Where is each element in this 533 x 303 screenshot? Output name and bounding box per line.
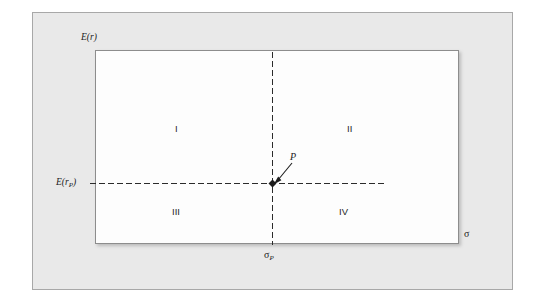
- y-axis-value-close: ): [73, 177, 76, 187]
- quadrant-label-ii: II: [347, 124, 352, 134]
- y-axis-label-text: E(r): [81, 32, 97, 42]
- x-axis-label-text: σ: [464, 228, 469, 239]
- point-p-label: P: [290, 152, 296, 162]
- y-axis-value-base: E(r: [56, 177, 69, 187]
- y-axis-value-label: E(rP): [56, 178, 76, 189]
- figure-root: E(r) E(rP) σ_PσP σ I II III IV P: [0, 0, 533, 303]
- plot-area: [95, 50, 459, 244]
- quadrant-label-iii: III: [172, 207, 180, 217]
- y-axis-label: E(r): [81, 33, 97, 43]
- quadrant-label-i: I: [175, 124, 178, 134]
- x-axis-value-subscript: P: [269, 254, 273, 262]
- x-axis-label: σ: [464, 229, 469, 239]
- x-axis-value-label: σ_PσP: [264, 250, 274, 262]
- quadrant-label-iv: IV: [339, 207, 348, 217]
